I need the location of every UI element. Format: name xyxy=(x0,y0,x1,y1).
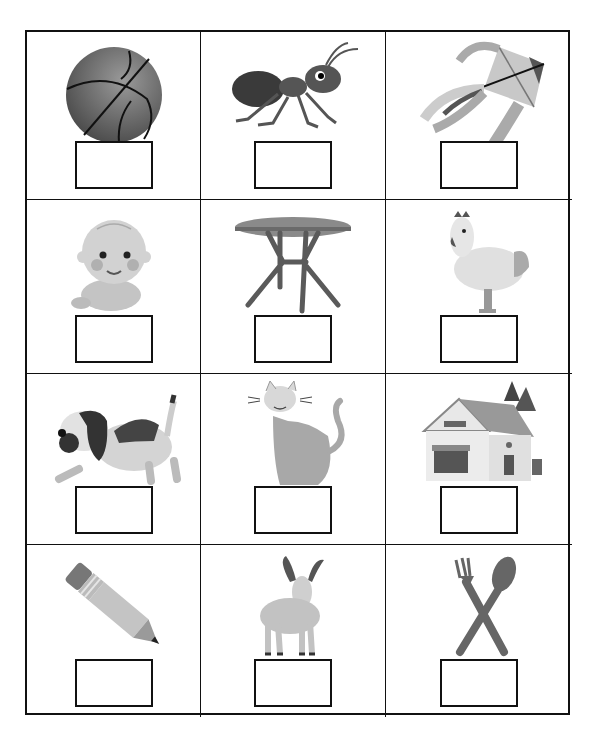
table-icon xyxy=(201,206,385,316)
answer-box[interactable] xyxy=(75,659,153,707)
answer-box[interactable] xyxy=(440,315,518,363)
answer-box[interactable] xyxy=(440,486,518,534)
cell-ant: ant xyxy=(201,32,386,200)
goat-icon xyxy=(201,551,385,661)
cell-baby: baby xyxy=(27,200,201,374)
hen-icon xyxy=(386,206,572,316)
cell-kite: kite xyxy=(386,32,572,200)
cell-table: table xyxy=(201,200,386,374)
cell-fork-and-spoon: fork-and-spoon xyxy=(386,545,572,717)
cell-hen: hen xyxy=(386,200,572,374)
dog-icon xyxy=(27,380,200,490)
answer-box[interactable] xyxy=(75,486,153,534)
cell-basketball: basketball xyxy=(27,32,201,200)
answer-box[interactable] xyxy=(75,315,153,363)
answer-box[interactable] xyxy=(440,659,518,707)
worksheet-grid: basketball ant xyxy=(25,30,570,715)
basketball-icon xyxy=(27,38,200,148)
house-icon xyxy=(386,380,572,490)
kite-icon xyxy=(386,38,572,148)
baby-icon xyxy=(27,206,200,316)
cell-cat: cat xyxy=(201,374,386,545)
answer-box[interactable] xyxy=(254,659,332,707)
cat-icon xyxy=(201,380,385,490)
cell-dog: dog xyxy=(27,374,201,545)
cell-pencil: pencil xyxy=(27,545,201,717)
fork-and-spoon-icon xyxy=(386,551,572,661)
answer-box[interactable] xyxy=(440,141,518,189)
pencil-icon xyxy=(27,551,200,661)
answer-box[interactable] xyxy=(254,141,332,189)
ant-icon xyxy=(201,38,385,148)
answer-box[interactable] xyxy=(254,315,332,363)
cell-goat: goat xyxy=(201,545,386,717)
answer-box[interactable] xyxy=(75,141,153,189)
cell-house: house xyxy=(386,374,572,545)
answer-box[interactable] xyxy=(254,486,332,534)
